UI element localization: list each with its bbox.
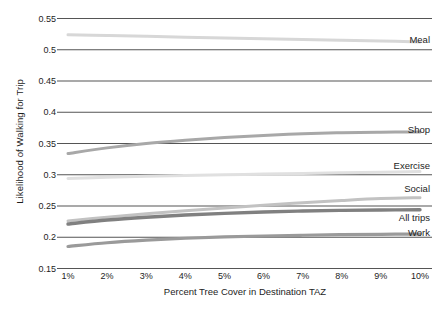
chart-plot-area [0,0,446,310]
x-tick-label: 8% [335,271,348,281]
x-tick-label: 2% [101,271,114,281]
chart-figure: Likelihood of Walking for Trip 0.550.50.… [0,0,446,310]
series-label-work: Work [0,226,430,237]
series-label-shop: Shop [0,123,430,134]
x-tick-label: 9% [374,271,387,281]
series-label-meal: Meal [0,33,430,44]
series-label-exercise: Exercise [0,160,430,171]
x-tick-label: 3% [140,271,153,281]
x-tick-label: 7% [296,271,309,281]
x-tick-label: 10% [411,271,429,281]
series-label-social: Social [0,182,430,193]
series-label-all-trips: All trips [0,211,430,222]
x-tick-label: 1% [61,271,74,281]
x-axis-title: Percent Tree Cover in Destination TAZ [60,286,430,297]
series-line-shop [68,132,420,154]
x-tick-label: 6% [257,271,270,281]
x-tick-label: 4% [179,271,192,281]
x-tick-label: 5% [218,271,231,281]
